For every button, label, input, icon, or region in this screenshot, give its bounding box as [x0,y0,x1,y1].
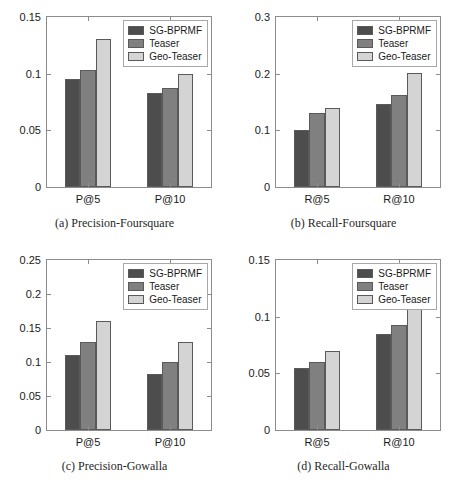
y-tick-label: 0.05 [20,391,47,402]
x-tick-mark [399,426,400,430]
x-tick-mark [317,183,318,187]
legend-label: Teaser [378,282,408,292]
subplot-caption-a: (a) Precision-Foursquare [0,216,229,231]
x-tick-label: P@5 [76,187,101,205]
bar [294,368,309,430]
plot-area-b: 00.10.20.3R@5R@10SG-BPRMFTeaserGeo-Tease… [276,17,440,187]
bar [376,334,391,430]
legend-swatch-icon [357,39,373,48]
subplot-a: 00.050.10.15P@5P@10SG-BPRMFTeaserGeo-Tea… [0,0,229,243]
legend-label: Teaser [149,39,179,49]
y-tick-mark [207,74,211,75]
y-tick-mark [47,294,51,295]
plot-area-c: 00.050.10.150.20.25P@5P@10SG-BPRMFTeaser… [47,260,211,430]
legend-label: Geo-Teaser [378,295,430,305]
x-tick-label: P@10 [155,430,186,448]
plot-area-a: 00.050.10.15P@5P@10SG-BPRMFTeaserGeo-Tea… [47,17,211,187]
x-tick-label: P@10 [155,187,186,205]
plot-area-d: 00.050.10.15R@5R@10SG-BPRMFTeaserGeo-Tea… [276,260,440,430]
y-tick-label: 0.1 [255,125,276,136]
legend-item: SG-BPRMF [128,24,202,37]
y-tick-label: 0.05 [20,125,47,136]
x-tick-mark [317,260,318,264]
x-tick-label: R@10 [383,187,414,205]
legend-swatch-icon [128,39,144,48]
figure-panel: 00.050.10.15P@5P@10SG-BPRMFTeaserGeo-Tea… [0,0,458,485]
y-tick-label: 0.2 [255,68,276,79]
y-tick-label: 0.15 [20,323,47,334]
y-tick-label: 0 [264,182,276,193]
legend-swatch-icon [357,26,373,35]
x-tick-mark [88,183,89,187]
bar [65,79,80,187]
y-tick-mark [436,373,440,374]
axes-c: 00.050.10.150.20.25P@5P@10SG-BPRMFTeaser… [46,259,212,431]
legend-item: Teaser [128,280,202,293]
subplot-caption-c: (c) Precision-Gowalla [0,459,229,474]
x-tick-mark [399,183,400,187]
legend-item: Teaser [357,280,431,293]
y-tick-label: 0.2 [26,289,47,300]
bar [65,355,80,430]
bar [178,342,193,430]
y-tick-label: 0.3 [255,12,276,23]
y-tick-mark [47,74,51,75]
y-tick-mark [276,373,280,374]
legend-swatch-icon [357,269,373,278]
axes-d: 00.050.10.15R@5R@10SG-BPRMFTeaserGeo-Tea… [275,259,441,431]
bar [147,93,162,187]
y-tick-mark [207,362,211,363]
bar [391,95,406,187]
legend-item: SG-BPRMF [128,267,202,280]
x-tick-mark [317,17,318,21]
legend-swatch-icon [128,295,144,304]
bar [162,88,177,187]
y-tick-label: 0.15 [249,255,276,266]
subplot-caption-d: (d) Recall-Gowalla [229,459,458,474]
legend-item: SG-BPRMF [357,267,431,280]
bar [147,374,162,430]
legend-item: Geo-Teaser [357,293,431,306]
x-tick-mark [88,17,89,21]
legend-swatch-icon [128,282,144,291]
bar [162,362,177,430]
y-tick-label: 0.15 [20,12,47,23]
y-tick-mark [47,362,51,363]
subplot-caption-b: (b) Recall-Foursquare [229,216,458,231]
y-tick-mark [276,130,280,131]
legend-item: SG-BPRMF [357,24,431,37]
legend-label: SG-BPRMF [149,26,202,36]
x-tick-label: R@10 [383,430,414,448]
legend-item: Teaser [357,37,431,50]
legend-label: Teaser [149,282,179,292]
legend-swatch-icon [128,52,144,61]
legend-item: Geo-Teaser [128,293,202,306]
legend-item: Teaser [128,37,202,50]
bar [96,321,111,430]
y-tick-label: 0 [264,425,276,436]
x-tick-mark [170,183,171,187]
legend-label: Teaser [378,39,408,49]
y-tick-mark [47,130,51,131]
bar [309,362,324,430]
axes-b: 00.10.20.3R@5R@10SG-BPRMFTeaserGeo-Tease… [275,16,441,188]
bar [325,108,340,187]
y-tick-mark [276,74,280,75]
legend-b: SG-BPRMFTeaserGeo-Teaser [352,20,437,67]
y-tick-label: 0.1 [255,311,276,322]
x-tick-mark [317,426,318,430]
x-tick-label: R@5 [304,430,329,448]
legend-swatch-icon [357,295,373,304]
bar [178,74,193,187]
legend-d: SG-BPRMFTeaserGeo-Teaser [352,263,437,310]
legend-label: SG-BPRMF [378,269,431,279]
y-tick-mark [276,317,280,318]
subplot-b: 00.10.20.3R@5R@10SG-BPRMFTeaserGeo-Tease… [229,0,458,243]
y-tick-mark [207,130,211,131]
legend-label: Geo-Teaser [149,52,201,62]
bar [294,130,309,187]
legend-swatch-icon [128,269,144,278]
bar [325,351,340,430]
x-tick-mark [88,426,89,430]
legend-swatch-icon [128,26,144,35]
